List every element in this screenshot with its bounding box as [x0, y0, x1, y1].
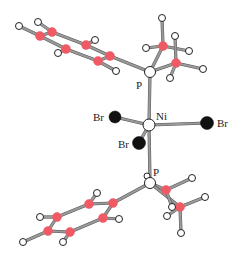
atom-c — [162, 186, 171, 195]
bond — [113, 183, 150, 203]
atom-h — [200, 66, 207, 73]
label-ni: Ni — [156, 110, 167, 122]
atom-h — [16, 23, 23, 30]
bond — [57, 204, 89, 217]
atom-p — [145, 67, 156, 78]
atom-h — [92, 37, 99, 44]
label-br-right: Br — [217, 117, 228, 129]
atom-h — [159, 15, 166, 22]
atom-h — [113, 68, 120, 75]
atom-c — [176, 203, 185, 212]
atom-c — [62, 45, 71, 54]
atom-h — [202, 194, 209, 201]
bond — [149, 72, 150, 125]
atom-h — [94, 190, 101, 197]
atom-h — [35, 19, 42, 26]
bond — [70, 218, 103, 232]
label-p-bottom: P — [153, 166, 159, 178]
label-br-left: Br — [93, 111, 104, 123]
atom-h — [143, 45, 150, 52]
atom-c — [48, 28, 57, 37]
atom-h — [37, 214, 44, 221]
label-br-lower: Br — [118, 138, 129, 150]
atom-br — [201, 117, 214, 130]
atom-h — [20, 239, 27, 246]
atom-h — [169, 204, 176, 211]
atom-h — [189, 175, 196, 182]
atom-c — [172, 59, 181, 68]
atom-c — [94, 57, 103, 66]
atom-h — [116, 216, 123, 223]
atom-h — [55, 50, 62, 57]
atom-c — [99, 214, 108, 223]
atom-h — [172, 33, 179, 40]
molecule-diagram: P Ni Br Br Br P — [0, 0, 245, 259]
atom-br — [133, 137, 146, 150]
atom-h — [60, 239, 67, 246]
atom-h — [167, 75, 174, 82]
atom-br — [109, 111, 121, 123]
atom-c — [44, 227, 53, 236]
bond — [66, 49, 98, 61]
atom-h — [178, 230, 185, 237]
atom-h — [164, 213, 171, 220]
atom-c — [85, 200, 94, 209]
atom-h — [186, 48, 193, 55]
atom-c — [109, 199, 118, 208]
atom-p — [145, 178, 156, 189]
atom-c — [53, 213, 62, 222]
atom-ni — [143, 119, 155, 131]
atom-c — [66, 228, 75, 237]
atom-c — [106, 52, 115, 61]
atom-c — [36, 32, 45, 41]
label-p-top: P — [136, 79, 142, 91]
atom-c — [82, 41, 91, 50]
atom-c — [159, 42, 168, 51]
